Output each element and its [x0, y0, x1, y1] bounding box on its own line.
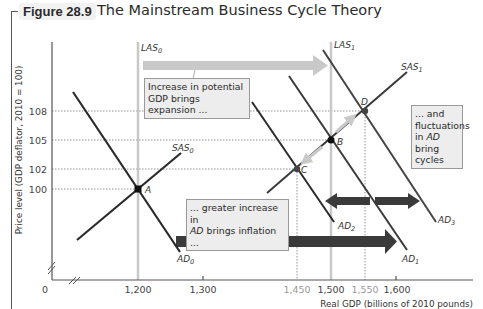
- callout-expansion-line2: GDP brings expansion ...: [148, 93, 246, 116]
- label-ad0: AD0: [176, 254, 194, 266]
- point-c: [294, 166, 300, 172]
- label-a: A: [144, 185, 151, 195]
- x-tick-1300: 1,300: [189, 284, 216, 295]
- label-ad1: AD1: [401, 254, 419, 266]
- label-las0: LAS0: [141, 43, 162, 55]
- label-las1: LAS1: [334, 40, 355, 52]
- callout-cycles: ... and fluctuations in AD bring cycles: [411, 105, 463, 169]
- x-tick-1550: 1,550: [351, 284, 378, 295]
- point-b: [328, 137, 335, 144]
- guide-lines: [52, 111, 365, 280]
- x-axis-title: Real GDP (billions of 2010 pounds): [320, 299, 473, 309]
- callout-cycles-line4: cycles: [415, 154, 459, 166]
- y-tick-100: 100: [29, 184, 47, 195]
- label-c: C: [301, 165, 308, 175]
- x-tick-1200: 1,200: [124, 284, 151, 295]
- x-tick-0: 0: [42, 284, 48, 295]
- sas0-curve: [77, 153, 181, 240]
- callout-inflation-line2: AD brings inflation ...: [190, 225, 285, 248]
- x-tick-labels: 0 1,200 1,300 1,450 1,500 1,550 1,600: [42, 284, 411, 295]
- y-tick-102: 102: [29, 164, 47, 175]
- callout-expansion: Increase in potential GDP brings expansi…: [144, 78, 250, 119]
- label-d: D: [361, 97, 368, 107]
- y-tick-labels: 108 105 102 100: [29, 106, 47, 195]
- callout-inflation-line1: ... greater increase in: [190, 202, 285, 225]
- x-tick-1600: 1,600: [383, 284, 410, 295]
- cycle-arrows: [325, 193, 420, 209]
- label-ad2: AD2: [337, 221, 355, 233]
- callout-expansion-line1: Increase in potential: [148, 81, 246, 93]
- axis-break-marks: [48, 262, 80, 284]
- sas1-light-arrow-down: [305, 147, 322, 161]
- y-tick-105: 105: [29, 135, 47, 146]
- callout-inflation: ... greater increase in AD brings inflat…: [186, 199, 289, 251]
- point-a: [135, 186, 142, 193]
- sas1-light-arrow-up: [336, 118, 352, 132]
- expansion-arrow: [143, 55, 328, 79]
- label-b: B: [337, 137, 343, 147]
- label-sas0: SAS0: [172, 143, 194, 155]
- callout-cycles-line1: ... and: [415, 108, 459, 120]
- x-tick-1450: 1,450: [283, 284, 310, 295]
- x-tick-1500: 1,500: [317, 284, 344, 295]
- label-ad3: AD3: [437, 215, 455, 227]
- callout-cycles-line2: fluctuations: [415, 120, 459, 132]
- point-d: [362, 108, 368, 114]
- y-tick-108: 108: [29, 106, 47, 117]
- label-sas1: SAS1: [401, 62, 423, 74]
- y-axis-title: Price level (GDP deflator, 2010 = 100): [14, 66, 24, 235]
- callout-cycles-line3: in AD bring: [415, 131, 459, 154]
